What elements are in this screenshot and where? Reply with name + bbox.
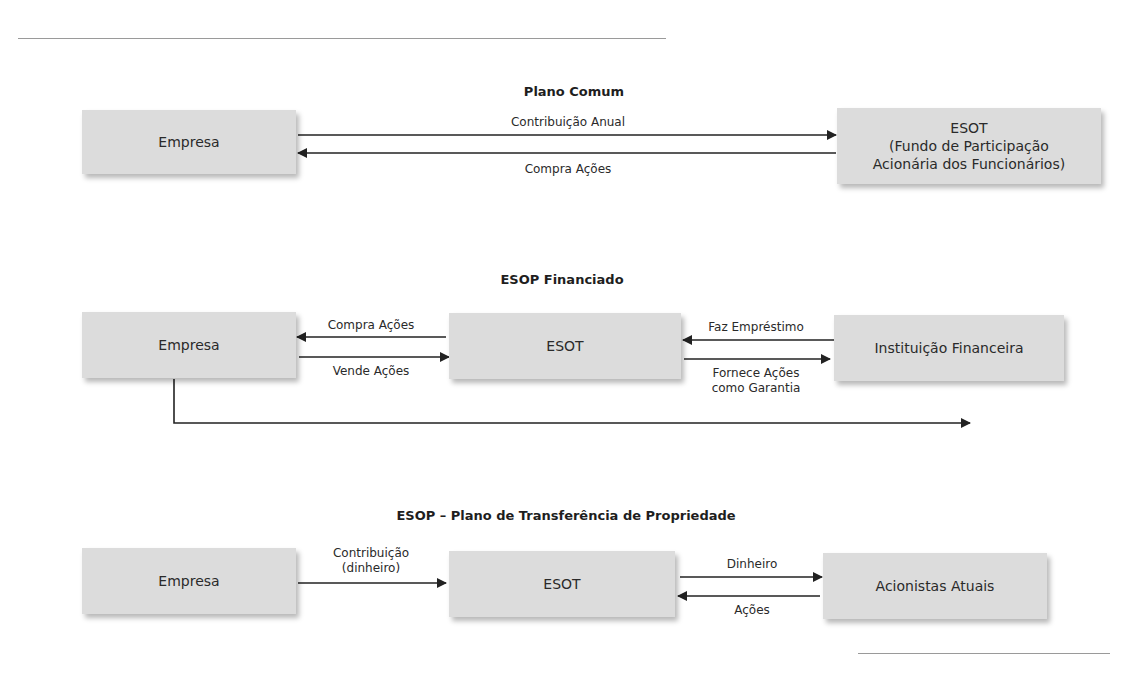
edge-label-dinheiro: Dinheiro (727, 557, 778, 572)
node-label-line: Acionária dos Funcionários) (873, 155, 1065, 173)
node-acionistas-atuais: Acionistas Atuais (823, 553, 1047, 619)
edge-label-line: (dinheiro) (333, 561, 409, 576)
edge-label-vende-acoes: Vende Ações (333, 364, 410, 379)
edge-label-contribuicao-anual: Contribuição Anual (511, 115, 625, 130)
node-empresa-3: Empresa (82, 548, 296, 614)
node-label-line: ESOT (950, 119, 987, 137)
diagram-title-plano-comum: Plano Comum (524, 84, 624, 99)
node-esot-fundo: ESOT (Fundo de Participação Acionária do… (837, 108, 1101, 184)
edge-label-faz-emprestimo: Faz Empréstimo (708, 320, 804, 335)
node-label: Instituição Financeira (874, 339, 1023, 357)
arrow-empresa-out (174, 379, 970, 423)
node-instituicao-financeira: Instituição Financeira (834, 315, 1064, 381)
node-label: Empresa (158, 572, 219, 590)
node-esot-3: ESOT (449, 551, 675, 617)
edge-label-compra-acoes: Compra Ações (328, 318, 415, 333)
edge-label-fornece-acoes: Fornece Ações como Garantia (712, 366, 801, 396)
node-label-line: (Fundo de Participação (889, 137, 1049, 155)
node-label: ESOT (543, 575, 580, 593)
node-empresa-1: Empresa (82, 110, 296, 174)
diagram-title-esop-financiado: ESOP Financiado (500, 272, 623, 287)
node-label: Empresa (158, 133, 219, 151)
node-esot-2: ESOT (449, 313, 681, 379)
node-label: Acionistas Atuais (876, 577, 995, 595)
node-label: ESOT (546, 337, 583, 355)
diagram-title-plano-transferencia: ESOP – Plano de Transferência de Proprie… (396, 508, 735, 523)
edge-label-compra-acoes: Compra Ações (525, 162, 612, 177)
edge-label-line: Contribuição (333, 546, 409, 561)
edge-label-line: como Garantia (712, 381, 801, 396)
node-label: Empresa (158, 336, 219, 354)
edge-label-acoes: Ações (734, 603, 770, 618)
edge-label-contribuicao-dinheiro: Contribuição (dinheiro) (333, 546, 409, 576)
edge-label-line: Fornece Ações (712, 366, 801, 381)
node-empresa-2: Empresa (82, 312, 296, 378)
